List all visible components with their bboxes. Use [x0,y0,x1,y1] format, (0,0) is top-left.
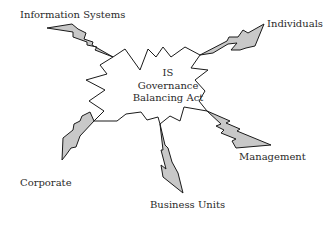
center-title-line-1: IS [132,67,204,80]
lightning-bolt-icon [200,24,264,55]
bolt-individuals [200,24,264,55]
label-information-systems: Information Systems [20,10,125,20]
lightning-bolt-icon [47,24,113,57]
lightning-bolt-icon [62,112,94,160]
governance-diagram [0,0,336,229]
label-individuals: Individuals [267,19,323,29]
bolt-business-units [160,124,183,193]
bolt-management [207,111,271,148]
label-business-units: Business Units [150,200,225,210]
lightning-bolt-icon [160,124,183,193]
bolt-corporate [62,112,94,160]
bolt-information-systems [47,24,113,57]
center-title: IS Governance Balancing Act [132,67,204,105]
lightning-bolt-icon [207,111,271,148]
label-management: Management [239,152,306,162]
label-corporate: Corporate [20,178,72,188]
center-title-line-3: Balancing Act [132,92,204,105]
center-title-line-2: Governance [132,80,204,93]
